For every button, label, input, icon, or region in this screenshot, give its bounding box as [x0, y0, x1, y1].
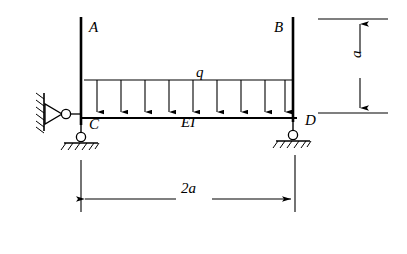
label-B: B [274, 20, 283, 35]
label-EI: EI [181, 115, 195, 130]
figure-canvas: A B q C D EI a 2a [0, 0, 407, 254]
label-span-2a: 2a [181, 181, 196, 196]
label-q: q [196, 65, 204, 80]
height-dimension [318, 19, 388, 113]
frame-diagram-svg [0, 0, 407, 254]
label-C: C [89, 117, 99, 132]
label-A: A [89, 20, 98, 35]
left-pin-support [36, 93, 81, 133]
distributed-load-arrows [97, 80, 285, 112]
label-height-a: a [349, 51, 364, 59]
label-D: D [305, 113, 316, 128]
